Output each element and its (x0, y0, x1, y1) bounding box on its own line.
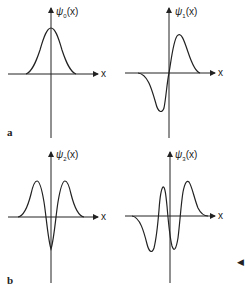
subscript: 1 (182, 13, 185, 19)
triangle-marker-icon: ◀ (237, 258, 244, 267)
panel-label-a: a (7, 126, 13, 138)
wavefunction-figure (0, 0, 245, 290)
psi3-x-label: x (218, 210, 223, 221)
panel-label-b: b (7, 274, 13, 286)
psi1-label: ψ1(x) (175, 7, 197, 17)
psi0-x-label: x (101, 68, 106, 79)
argument: (x) (186, 149, 198, 160)
subscript: 0 (63, 13, 66, 19)
psi2-x-label: x (101, 211, 106, 222)
subscript: 2 (63, 156, 66, 162)
psi3-label: ψ3(x) (175, 150, 197, 160)
psi1-x-label: x (218, 67, 223, 78)
psi0-label: ψ0(x) (56, 7, 78, 17)
argument: (x) (67, 6, 79, 17)
subscript: 3 (182, 156, 185, 162)
argument: (x) (186, 6, 198, 17)
argument: (x) (67, 149, 79, 160)
psi2-label: ψ2(x) (56, 150, 78, 160)
